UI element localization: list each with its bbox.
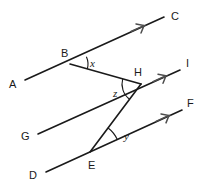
segment-BH xyxy=(70,64,141,84)
angle-label-z: z xyxy=(113,88,117,99)
point-label-E: E xyxy=(88,160,95,171)
point-label-D: D xyxy=(29,170,37,181)
point-label-F: F xyxy=(187,98,194,109)
angle-y-arc xyxy=(108,128,117,139)
point-label-C: C xyxy=(171,11,179,22)
point-label-B: B xyxy=(61,48,68,59)
angle-label-x: x xyxy=(90,58,95,69)
point-label-G: G xyxy=(21,131,30,142)
angle-label-y: y xyxy=(124,131,129,142)
point-label-A: A xyxy=(9,79,16,90)
angle-x-arc xyxy=(86,57,88,69)
point-label-H: H xyxy=(134,67,142,78)
point-label-I: I xyxy=(186,58,189,69)
geometry-canvas xyxy=(0,0,209,193)
geometry-figure: A C B H I G F E D x z y xyxy=(0,0,209,193)
